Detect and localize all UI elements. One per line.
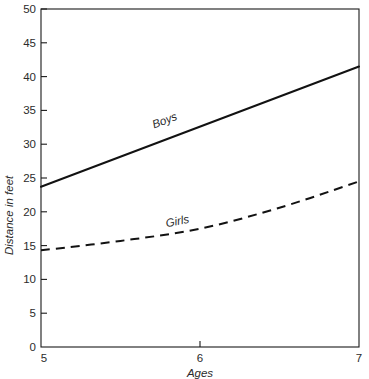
y-tick-label-50: 50	[23, 3, 36, 15]
y-tick-label-25: 25	[23, 172, 36, 184]
y-tick-label-0: 0	[30, 341, 36, 353]
line-chart: 50 45 40 35 30 25 20 15 10 5 0 5 6 7 Dis…	[0, 0, 369, 379]
y-tick-label-15: 15	[23, 240, 36, 252]
x-tick-label-6: 6	[197, 352, 203, 364]
y-tick-label-45: 45	[23, 37, 36, 49]
x-axis-title: Ages	[186, 367, 213, 379]
y-tick-label-20: 20	[23, 206, 36, 218]
y-tick-label-40: 40	[23, 71, 36, 83]
y-tick-label-10: 10	[23, 273, 36, 285]
y-axis-title: Distance in feet	[3, 175, 15, 255]
y-tick-label-30: 30	[23, 138, 36, 150]
x-tick-label-5: 5	[41, 352, 47, 364]
y-tick-label-35: 35	[23, 104, 36, 116]
x-tick-label-7: 7	[356, 352, 362, 364]
y-tick-label-5: 5	[30, 307, 36, 319]
figure-container: 50 45 40 35 30 25 20 15 10 5 0 5 6 7 Dis…	[0, 0, 369, 379]
chart-background	[0, 0, 369, 379]
